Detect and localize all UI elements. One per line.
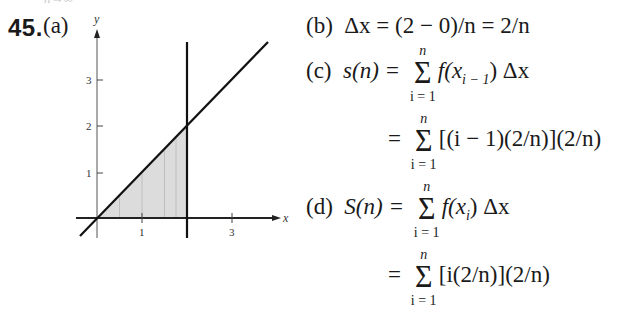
summation-c: n Σ i = 1 <box>410 58 436 88</box>
sum-lower: i = 1 <box>408 226 446 240</box>
part-c-line2: = n Σ i = 1 [(i − 1)(2/n)](2/n) <box>388 126 601 156</box>
part-b: (b) Δx = (2 − 0)/n = 2/n <box>306 14 530 37</box>
x-tick-3: 3 <box>229 226 235 238</box>
sum-lower: i = 1 <box>405 158 443 172</box>
sum-lower: i = 1 <box>405 294 443 308</box>
sum-lower: i = 1 <box>404 90 442 104</box>
part-d-body: f(x <box>442 194 466 219</box>
y-tick-3: 3 <box>86 74 92 86</box>
x-tick-1: 1 <box>139 226 145 238</box>
part-b-equation: Δx = (2 − 0)/n = 2/n <box>344 13 529 38</box>
summation-d: n Σ i = 1 <box>414 194 440 224</box>
part-c-body: f(x <box>438 58 462 83</box>
y-axis-arrow-icon <box>94 29 100 38</box>
part-c-tail: ) Δx <box>489 58 529 83</box>
part-d-line2-body: [i(2/n)](2/n) <box>439 262 550 287</box>
riemann-graph: y x 1 2 3 1 3 <box>0 0 300 260</box>
y-axis-label: y <box>93 12 100 26</box>
sigma-icon: Σ <box>414 193 440 225</box>
part-c-lhs: s(n) = <box>343 58 400 83</box>
sigma-icon: Σ <box>410 57 436 89</box>
part-d-label: (d) <box>306 194 333 219</box>
x-axis-arrow-icon <box>272 215 281 221</box>
part-c-line2-body: [(i − 1)(2/n)](2/n) <box>439 126 601 151</box>
sigma-icon: Σ <box>411 125 437 157</box>
summation-d2: n Σ i = 1 <box>411 262 437 292</box>
part-d: (d) S(n) = n Σ i = 1 f(xi) Δx <box>306 194 510 224</box>
y-ticks <box>97 80 103 173</box>
part-c-sub: i − 1 <box>462 72 489 87</box>
part-d-lhs: S(n) = <box>344 194 404 219</box>
equals-sign: = <box>388 262 401 287</box>
part-b-label: (b) <box>306 13 333 38</box>
part-d-tail: ) Δx <box>470 194 510 219</box>
part-c-label: (c) <box>306 58 332 83</box>
y-tick-1: 1 <box>86 167 92 179</box>
sigma-icon: Σ <box>411 261 437 293</box>
part-d-line2: = n Σ i = 1 [i(2/n)](2/n) <box>388 262 550 292</box>
equals-sign: = <box>388 126 401 151</box>
y-tick-2: 2 <box>86 120 92 132</box>
summation-c2: n Σ i = 1 <box>411 126 437 156</box>
x-axis-label: x <box>282 211 289 225</box>
part-c: (c) s(n) = n Σ i = 1 f(xi − 1) Δx <box>306 58 529 88</box>
